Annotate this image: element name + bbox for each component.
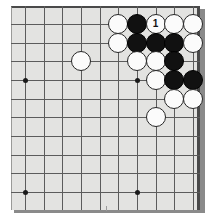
black-stone[interactable] xyxy=(164,33,184,53)
grid-line-horizontal xyxy=(11,173,200,174)
go-board[interactable]: 1 xyxy=(11,6,205,213)
white-stone[interactable] xyxy=(183,89,203,109)
grid-line-horizontal xyxy=(11,136,200,137)
star-point xyxy=(23,190,28,195)
star-point xyxy=(135,78,140,83)
white-stone[interactable] xyxy=(108,33,128,53)
white-stone[interactable] xyxy=(146,51,166,71)
black-stone[interactable] xyxy=(127,14,147,34)
grid-line-horizontal xyxy=(11,155,200,156)
white-stone[interactable] xyxy=(164,89,184,109)
bottom-tick-mark xyxy=(106,206,107,211)
move-number-label: 1 xyxy=(147,15,165,33)
white-stone[interactable]: 1 xyxy=(146,14,166,34)
go-diagram-screenshot: 1 xyxy=(0,0,220,213)
grid-line-vertical xyxy=(25,6,26,210)
black-stone[interactable] xyxy=(146,33,166,53)
grid-line-vertical xyxy=(81,6,82,210)
white-stone[interactable] xyxy=(183,14,203,34)
grid-line-horizontal xyxy=(11,117,200,118)
white-stone[interactable] xyxy=(146,70,166,90)
grid-line-vertical xyxy=(44,6,45,210)
grid-line-vertical xyxy=(100,6,101,210)
white-stone[interactable] xyxy=(146,107,166,127)
star-point xyxy=(23,78,28,83)
black-stone[interactable] xyxy=(183,70,203,90)
star-point xyxy=(135,190,140,195)
white-stone[interactable] xyxy=(183,33,203,53)
black-stone[interactable] xyxy=(127,33,147,53)
grid-line-horizontal xyxy=(11,192,200,193)
grid-line-vertical xyxy=(62,6,63,210)
